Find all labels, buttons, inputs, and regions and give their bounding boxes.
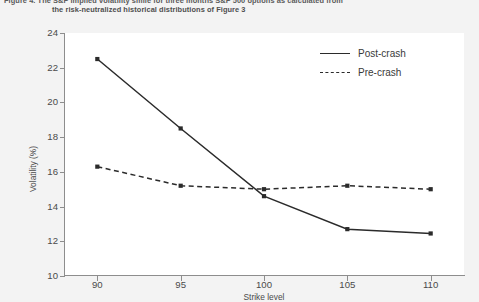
y-tick-label-12: 12 — [20, 236, 58, 245]
data-point-post-crash-95 — [179, 126, 183, 130]
x-tick-mark-90 — [97, 276, 98, 281]
y-tick-label-18: 18 — [20, 132, 58, 141]
series-line-pre-crash — [97, 167, 430, 190]
legend-item-post-crash: Post-crash — [320, 44, 406, 63]
data-point-post-crash-100 — [262, 194, 266, 198]
legend-label-pre-crash: Pre-crash — [358, 67, 401, 78]
y-tick-label-16: 16 — [20, 167, 58, 176]
data-point-pre-crash-95 — [179, 184, 183, 188]
y-tick-label-14: 14 — [20, 202, 58, 211]
x-axis-label: Strike level — [64, 292, 464, 302]
figure-container: Volatility (%) 2422201816141210 90951001… — [20, 24, 466, 277]
data-point-pre-crash-110 — [429, 187, 433, 191]
figure-caption: Figure 4. The S&P implied volatility smi… — [0, 0, 479, 15]
data-point-pre-crash-100 — [262, 187, 266, 191]
y-tick-label-22: 22 — [20, 63, 58, 72]
legend-line-dashed-icon — [320, 68, 350, 78]
data-point-post-crash-90 — [95, 57, 99, 61]
series-line-post-crash — [97, 59, 430, 233]
y-tick-label-20: 20 — [20, 97, 58, 106]
caption-line-2: the risk-neutralized historical distribu… — [0, 5, 479, 14]
legend-line-solid-icon — [320, 49, 350, 59]
legend-item-pre-crash: Pre-crash — [320, 63, 406, 82]
data-point-pre-crash-90 — [95, 165, 99, 169]
x-tick-mark-95 — [181, 276, 182, 281]
x-tick-mark-100 — [264, 276, 265, 281]
data-point-post-crash-110 — [429, 231, 433, 235]
y-tick-label-10: 10 — [20, 271, 58, 280]
data-point-post-crash-105 — [345, 227, 349, 231]
x-tick-mark-105 — [347, 276, 348, 281]
data-point-pre-crash-105 — [345, 184, 349, 188]
chart-legend: Post-crash Pre-crash — [320, 44, 406, 82]
legend-label-post-crash: Post-crash — [358, 48, 406, 59]
y-tick-label-24: 24 — [20, 28, 58, 37]
y-tick-mark-10 — [60, 276, 65, 277]
x-tick-mark-110 — [431, 276, 432, 281]
